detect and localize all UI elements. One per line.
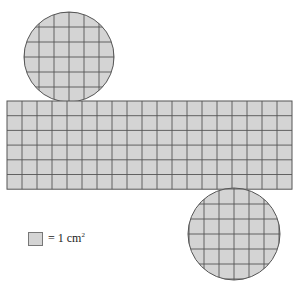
legend-unit-square	[28, 232, 43, 246]
legend-label: = 1 cm2	[48, 231, 85, 246]
legend: = 1 cm2	[28, 231, 85, 246]
rectangle-lateral-surface	[7, 101, 292, 189]
bottom-circle-base	[188, 188, 280, 280]
top-circle-base	[24, 12, 114, 102]
